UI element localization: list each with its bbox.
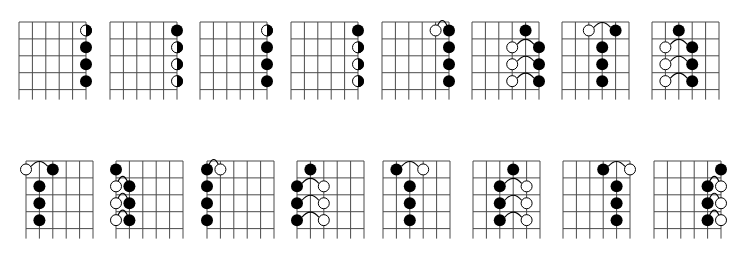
- bottom-row: [21, 159, 728, 238]
- filled-note-icon: [80, 75, 92, 87]
- filled-note-icon: [171, 24, 183, 36]
- fretboard-diagram: [383, 161, 450, 239]
- fretboard-diagram: [563, 161, 636, 239]
- fretboard-diagram: [652, 22, 719, 100]
- open-note-icon: [625, 164, 636, 175]
- filled-note-icon: [291, 197, 303, 209]
- half-note-fill: [267, 24, 273, 36]
- filled-note-icon: [80, 58, 92, 70]
- filled-note-icon: [702, 180, 714, 192]
- filled-note-icon: [611, 214, 623, 226]
- open-note-icon: [111, 198, 122, 209]
- fretboard-diagram: [654, 161, 727, 239]
- filled-note-icon: [261, 41, 273, 53]
- open-note-icon: [318, 215, 329, 226]
- tie-arc-icon: [438, 20, 447, 25]
- filled-note-icon: [33, 197, 45, 209]
- open-note-icon: [660, 42, 671, 53]
- half-note-fill: [177, 41, 183, 53]
- filled-note-icon: [494, 180, 506, 192]
- filled-note-icon: [686, 58, 698, 70]
- half-note-fill: [358, 58, 364, 70]
- filled-note-icon: [123, 214, 135, 226]
- fretboard-diagram: [110, 161, 183, 239]
- half-note-icon: [262, 24, 274, 36]
- filled-note-icon: [611, 197, 623, 209]
- filled-note-icon: [47, 163, 59, 175]
- open-note-icon: [111, 181, 122, 192]
- filled-note-icon: [596, 75, 608, 87]
- open-note-icon: [716, 181, 727, 192]
- fretboard-diagram: [110, 22, 183, 100]
- open-note-icon: [716, 198, 727, 209]
- filled-note-icon: [507, 163, 519, 175]
- half-note-icon: [81, 24, 93, 36]
- filled-note-icon: [201, 163, 213, 175]
- fretboard-diagram: [473, 161, 540, 239]
- open-note-icon: [660, 76, 671, 87]
- half-note-fill: [358, 75, 364, 87]
- diagram-canvas: [0, 0, 747, 256]
- filled-note-icon: [533, 41, 545, 53]
- fretboard-diagram-figure: [0, 0, 747, 256]
- open-note-icon: [521, 215, 532, 226]
- fretboard-diagram: [472, 22, 545, 100]
- filled-note-icon: [390, 163, 402, 175]
- open-note-icon: [521, 198, 532, 209]
- half-note-fill: [358, 41, 364, 53]
- fretboard-diagram: [21, 161, 94, 239]
- tie-arc-icon: [118, 210, 127, 215]
- open-note-icon: [430, 25, 441, 36]
- open-note-icon: [318, 198, 329, 209]
- filled-note-icon: [33, 214, 45, 226]
- open-note-icon: [507, 59, 518, 70]
- filled-note-icon: [686, 75, 698, 87]
- half-note-fill: [86, 24, 92, 36]
- tie-arc-icon: [710, 210, 719, 215]
- filled-note-icon: [597, 163, 609, 175]
- fretboard-diagram: [19, 22, 92, 100]
- filled-note-icon: [110, 163, 122, 175]
- filled-note-icon: [443, 75, 455, 87]
- fretboard-diagram: [382, 20, 455, 99]
- half-note-fill: [177, 75, 183, 87]
- filled-note-icon: [702, 197, 714, 209]
- open-note-icon: [111, 215, 122, 226]
- filled-note-icon: [404, 197, 416, 209]
- filled-note-icon: [533, 58, 545, 70]
- tie-arc-icon: [118, 176, 127, 181]
- half-note-fill: [177, 58, 183, 70]
- filled-note-icon: [291, 180, 303, 192]
- filled-note-icon: [610, 24, 622, 36]
- filled-note-icon: [261, 75, 273, 87]
- half-note-icon: [172, 41, 184, 53]
- open-note-icon: [521, 181, 532, 192]
- filled-note-icon: [596, 41, 608, 53]
- half-note-icon: [172, 75, 184, 87]
- open-note-icon: [507, 42, 518, 53]
- open-note-icon: [660, 59, 671, 70]
- half-note-icon: [353, 58, 365, 70]
- filled-note-icon: [123, 180, 135, 192]
- filled-note-icon: [596, 58, 608, 70]
- tie-arc-icon: [710, 176, 719, 181]
- half-note-icon: [172, 58, 184, 70]
- filled-note-icon: [33, 180, 45, 192]
- filled-note-icon: [352, 24, 364, 36]
- filled-note-icon: [443, 24, 455, 36]
- filled-note-icon: [702, 214, 714, 226]
- open-note-icon: [215, 164, 226, 175]
- filled-note-icon: [533, 75, 545, 87]
- filled-note-icon: [404, 180, 416, 192]
- filled-note-icon: [304, 163, 316, 175]
- open-note-icon: [583, 25, 594, 36]
- filled-note-icon: [291, 214, 303, 226]
- filled-note-icon: [686, 41, 698, 53]
- filled-note-icon: [494, 197, 506, 209]
- open-note-icon: [418, 164, 429, 175]
- tie-arc-icon: [710, 193, 719, 198]
- filled-note-icon: [261, 58, 273, 70]
- filled-note-icon: [201, 180, 213, 192]
- filled-note-icon: [404, 214, 416, 226]
- open-note-icon: [716, 215, 727, 226]
